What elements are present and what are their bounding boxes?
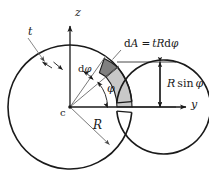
center-point — [68, 105, 72, 109]
height-sin: sin — [175, 77, 193, 90]
area-element-label: dA =tRdφ — [124, 38, 178, 49]
dphi-angle-label: dφ — [78, 64, 91, 74]
area-element-dphi-phi: φ — [171, 37, 178, 49]
thickness-arrow-outer — [43, 62, 53, 68]
area-element-leader-line — [113, 50, 122, 60]
z-axis-label: z — [75, 7, 81, 18]
area-element-tR: tR — [152, 37, 164, 49]
radius-leader-line — [70, 107, 110, 145]
thickness-arrow-inner — [54, 62, 63, 70]
y-axis-label: y — [191, 99, 197, 110]
phi-angle-arc — [98, 82, 108, 108]
thickness-leader-line — [28, 38, 45, 62]
radius-label: R — [93, 119, 102, 131]
phi-angle-label: φ — [107, 83, 115, 94]
figure-canvas: z y c t R φ dφ dA =tRdφ Rsinφ — [0, 0, 209, 180]
dphi-phi: φ — [84, 63, 91, 74]
center-label: c — [60, 108, 66, 118]
area-element-d: d — [124, 37, 131, 49]
thickness-label: t — [28, 26, 32, 37]
height-label: Rsinφ — [167, 78, 203, 89]
area-element-equals: = — [139, 37, 152, 49]
height-phi: φ — [194, 77, 204, 90]
